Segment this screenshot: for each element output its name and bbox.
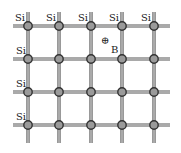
silicon-atom <box>87 22 95 30</box>
silicon-atom <box>150 55 158 63</box>
silicon-atom <box>87 121 95 129</box>
silicon-atom <box>24 88 32 96</box>
silicon-lattice-diagram: SiSiSiSiSiSiSiSi⊕B <box>0 0 181 153</box>
silicon-atom <box>118 88 126 96</box>
top-si-label: Si <box>141 12 151 23</box>
top-si-label: Si <box>46 12 56 23</box>
silicon-atom <box>24 55 32 63</box>
silicon-atom <box>150 22 158 30</box>
top-si-label: Si <box>15 12 25 23</box>
silicon-atom <box>150 88 158 96</box>
silicon-atom <box>150 121 158 129</box>
silicon-atom <box>55 22 63 30</box>
left-si-label: Si <box>16 45 26 56</box>
silicon-atom <box>55 121 63 129</box>
silicon-atom <box>55 88 63 96</box>
positive-charge-icon: ⊕ <box>101 35 109 46</box>
silicon-atom <box>87 88 95 96</box>
top-si-label: Si <box>109 12 119 23</box>
silicon-atom <box>118 121 126 129</box>
top-si-label: Si <box>78 12 88 23</box>
left-si-label: Si <box>16 78 26 89</box>
silicon-atom <box>118 22 126 30</box>
left-si-label: Si <box>16 111 26 122</box>
silicon-atom <box>24 121 32 129</box>
silicon-atom <box>87 55 95 63</box>
boron-dopant-label: B <box>111 44 118 55</box>
silicon-atom <box>55 55 63 63</box>
silicon-atom <box>118 55 126 63</box>
silicon-atom <box>24 22 32 30</box>
